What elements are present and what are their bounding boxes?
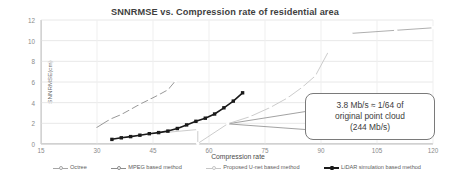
x-tick-label-60: 60 <box>205 147 212 154</box>
x-tick-label-30: 30 <box>93 147 100 154</box>
legend-marker-icon <box>206 165 221 172</box>
bitrate-callout: 3.8 Mb/s ≈ 1/64 of original point cloud … <box>305 93 435 140</box>
legend-marker-icon <box>53 165 68 172</box>
x-tick-label-90: 90 <box>317 147 324 154</box>
callout-line-1: 3.8 Mb/s ≈ 1/64 of <box>337 100 404 111</box>
legend-label: LiDAR simulation based method <box>341 165 421 171</box>
legend-label: MPEG based method <box>128 165 181 171</box>
legend-label: Octree <box>70 165 87 171</box>
callout-line-2: original point cloud <box>335 111 405 122</box>
legend-item-lidar-simulation-based-method[interactable]: LiDAR simulation based method <box>324 165 421 172</box>
x-tick-label-45: 45 <box>149 147 156 154</box>
legend-item-mpeg-based-method[interactable]: MPEG based method <box>111 165 181 172</box>
legend-marker-icon <box>324 165 339 172</box>
chart-legend: OctreeMPEG based methodProposed U-net ba… <box>41 162 433 174</box>
callout-line-3: (244 Mb/s) <box>350 122 390 133</box>
legend-item-octree[interactable]: Octree <box>53 165 87 172</box>
legend-label: Proposed U-net based method <box>223 165 299 171</box>
x-axis-ticks: 153045607590105120 <box>0 0 450 181</box>
x-tick-label-75: 75 <box>261 147 268 154</box>
x-tick-label-15: 15 <box>37 147 44 154</box>
legend-item-proposed-u-net-based-method[interactable]: Proposed U-net based method <box>206 165 299 172</box>
chart-container: SNNRMSE vs. Compression rate of resident… <box>0 0 450 181</box>
x-tick-label-105: 105 <box>372 147 383 154</box>
x-tick-label-120: 120 <box>428 147 439 154</box>
legend-marker-icon <box>111 165 126 172</box>
